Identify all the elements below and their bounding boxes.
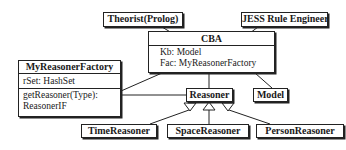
generalization-arrow-time (184, 103, 196, 111)
class-time-reasoner[interactable]: TimeReasoner (81, 124, 157, 138)
attributes-section: rSet: HashSet (19, 73, 120, 88)
class-name: JESS Rule Engineer (242, 13, 327, 25)
method: getReasoner(Type): (23, 90, 116, 101)
assoc-cba-factory (121, 73, 162, 91)
methods-section: getReasoner(Type): ReasonerIF (19, 88, 120, 113)
class-person-reasoner[interactable]: PersonReasoner (256, 124, 344, 138)
attributes-section: Kb: Model Fac: MyReasonerFactory (149, 45, 274, 70)
class-theorist[interactable]: Theorist(Prolog) (103, 12, 183, 27)
gen-time (150, 110, 189, 124)
class-name: Theorist(Prolog) (104, 13, 182, 25)
class-my-reasoner-factory[interactable]: MyReasonerFactory rSet: HashSet getReaso… (18, 60, 121, 117)
class-reasoner[interactable]: Reasoner (186, 88, 233, 102)
class-jess-rule-engineer[interactable]: JESS Rule Engineer (241, 12, 328, 27)
class-name: CBA (149, 32, 274, 45)
class-name: MyReasonerFactory (19, 61, 120, 73)
class-cba[interactable]: CBA Kb: Model Fac: MyReasonerFactory (148, 31, 275, 73)
generalization-arrow-space (203, 102, 215, 110)
class-name: Model (254, 89, 287, 101)
assoc-cba-model (255, 73, 272, 88)
class-model[interactable]: Model (253, 88, 288, 102)
class-name: SpaceReasoner (168, 125, 248, 137)
class-name: Reasoner (187, 89, 232, 101)
class-name: TimeReasoner (82, 125, 156, 137)
generalization-arrow-person (222, 103, 234, 111)
attribute: rSet: HashSet (23, 75, 116, 87)
method-return-type: ReasonerIF (23, 101, 116, 112)
attribute: Fac: MyReasonerFactory (160, 58, 270, 69)
class-name: PersonReasoner (257, 125, 343, 137)
gen-person (229, 110, 270, 124)
class-space-reasoner[interactable]: SpaceReasoner (167, 124, 249, 138)
attribute: Kb: Model (160, 47, 270, 58)
